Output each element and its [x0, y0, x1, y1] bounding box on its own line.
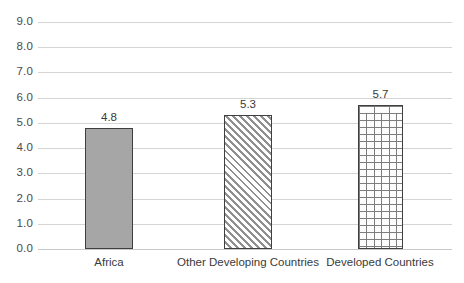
- bar-developed-countries[interactable]: [358, 105, 403, 249]
- bar-africa[interactable]: [85, 128, 133, 249]
- bar-value-label: 5.3: [218, 99, 278, 111]
- x-axis-category-label: Developed Countries: [290, 257, 464, 269]
- bar-chart: 9.08.07.06.05.04.03.02.01.00.0 4.8Africa…: [0, 0, 464, 283]
- plot-area: 4.8Africa5.3Other Developing Countries5.…: [0, 0, 464, 283]
- bar-value-label: 4.8: [79, 112, 139, 124]
- bar-other-developing-countries[interactable]: [224, 115, 272, 249]
- bar-value-label: 5.7: [351, 89, 411, 101]
